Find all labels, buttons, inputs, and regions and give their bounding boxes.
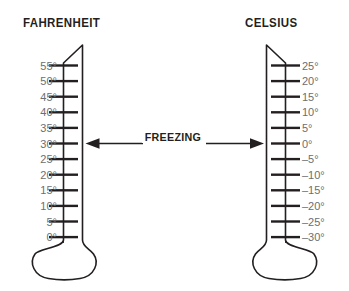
fahrenheit-tick-label: 20° xyxy=(13,170,57,181)
fahrenheit-tick-label: 40° xyxy=(13,107,57,118)
fahrenheit-tick-label: 50° xyxy=(13,76,57,87)
celsius-tick-label: –25° xyxy=(302,217,346,228)
fahrenheit-tick-label: 5° xyxy=(13,217,57,228)
celsius-tick-label: –10° xyxy=(302,170,346,181)
fahrenheit-tick-label: 45° xyxy=(13,92,57,103)
fahrenheit-tick-label: 10° xyxy=(13,201,57,212)
celsius-tick-label: 10° xyxy=(302,107,346,118)
celsius-scale-labels: 25° 20° 15° 10° 5° 0° –5° –10° –15° –20°… xyxy=(302,0,346,291)
fahrenheit-tick-label: 25° xyxy=(13,154,57,165)
thermometer-comparison-diagram: FAHRENHEIT CELSIUS FREEZING 55° 50° 45° … xyxy=(0,0,349,291)
celsius-tick-label: –15° xyxy=(302,185,346,196)
celsius-tick-label: 15° xyxy=(302,92,346,103)
celsius-tick-label: –5° xyxy=(302,154,346,165)
freezing-arrow-right-head xyxy=(250,138,264,149)
celsius-tick-label: 5° xyxy=(302,123,346,134)
fahrenheit-tick-label: 30° xyxy=(13,139,57,150)
celsius-heading: CELSIUS xyxy=(245,16,297,30)
celsius-tick-label: 25° xyxy=(302,61,346,72)
freezing-arrow-left-head xyxy=(86,138,100,149)
celsius-tick-label: 0° xyxy=(302,139,346,150)
celsius-tick-label: –20° xyxy=(302,201,346,212)
fahrenheit-tick-label: 0° xyxy=(13,232,57,243)
fahrenheit-scale-labels: 55° 50° 45° 40° 35° 30° 25° 20° 15° 10° … xyxy=(13,0,57,291)
fahrenheit-tick-label: 55° xyxy=(13,61,57,72)
fahrenheit-tick-label: 35° xyxy=(13,123,57,134)
fahrenheit-tick-label: 15° xyxy=(13,185,57,196)
freezing-label: FREEZING xyxy=(142,131,204,143)
celsius-tick-label: –30° xyxy=(302,232,346,243)
celsius-tick-label: 20° xyxy=(302,76,346,87)
